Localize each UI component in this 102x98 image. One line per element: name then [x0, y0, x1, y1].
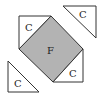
dissection-diagram: F C C C C [0, 0, 102, 98]
square-label: F [47, 45, 54, 56]
triangle-bottom-left-label: C [14, 78, 22, 89]
triangle-bottom-left [8, 61, 39, 92]
triangle-top-right-label: C [79, 9, 87, 20]
triangle-upper-left-label: C [25, 22, 33, 33]
triangle-lower-right-label: C [69, 68, 77, 79]
